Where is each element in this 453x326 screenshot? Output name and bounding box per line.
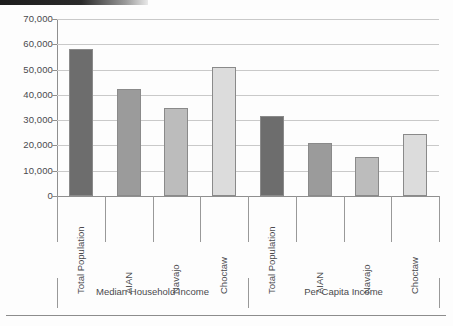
bar — [308, 143, 332, 196]
bar — [69, 49, 93, 196]
bar — [164, 108, 188, 197]
category-label: Total Population — [267, 226, 277, 294]
y-tick-mark — [52, 120, 57, 121]
bottom-rule — [6, 315, 446, 316]
category-separator — [344, 196, 345, 242]
category-separator — [439, 196, 440, 242]
gridline — [57, 120, 439, 121]
group-separator — [57, 278, 58, 308]
group-axis: Median Household IncomePer Capita Income — [57, 286, 439, 310]
gridline — [57, 19, 439, 20]
category-separator — [200, 196, 201, 242]
y-tick-label: 60,000 — [23, 39, 53, 49]
y-tick-label: 10,000 — [23, 166, 53, 176]
y-tick-mark — [52, 95, 57, 96]
category-separator — [105, 196, 106, 242]
category-separator — [391, 196, 392, 242]
y-tick-label: 40,000 — [23, 90, 53, 100]
y-tick-label: 20,000 — [23, 140, 53, 150]
gridline — [57, 70, 439, 71]
y-tick-label: 70,000 — [23, 14, 53, 24]
y-tick-mark — [52, 44, 57, 45]
group-separator — [439, 278, 440, 308]
group-separator — [248, 278, 249, 308]
gridline — [57, 95, 439, 96]
gridline — [57, 44, 439, 45]
y-tick-label: 50,000 — [23, 65, 53, 75]
group-label: Median Household Income — [57, 286, 248, 298]
y-tick-label: 30,000 — [23, 115, 53, 125]
y-tick-mark — [52, 70, 57, 71]
y-axis-tick-labels: 010,00020,00030,00040,00050,00060,00070,… — [0, 0, 53, 326]
y-tick-mark — [52, 196, 57, 197]
category-separator — [153, 196, 154, 242]
category-separator — [296, 196, 297, 242]
plot-area — [57, 19, 439, 196]
bar — [212, 67, 236, 196]
y-tick-mark — [52, 145, 57, 146]
gridline — [57, 171, 439, 172]
bar-chart: 010,00020,00030,00040,00050,00060,00070,… — [0, 0, 453, 326]
bar — [403, 134, 427, 196]
group-label: Per Capita Income — [248, 286, 439, 298]
bar — [260, 116, 284, 196]
category-separator — [57, 196, 58, 242]
category-label: Total Population — [76, 226, 86, 294]
category-separator — [248, 196, 249, 242]
gridline — [57, 145, 439, 146]
bar — [355, 157, 379, 196]
bar — [117, 89, 141, 196]
y-tick-mark — [52, 19, 57, 20]
y-tick-mark — [52, 171, 57, 172]
